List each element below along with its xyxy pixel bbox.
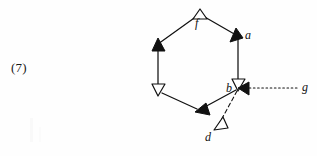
- edge-upperleft-to-top: [158, 16, 197, 44]
- edge-bottom-to-lowerleft: [162, 93, 197, 109]
- arrowhead-filled-a: [230, 28, 243, 42]
- arrowheads: [152, 9, 249, 130]
- node-label-g: g: [302, 81, 308, 93]
- figure-container: (7) f a b g d: [0, 0, 317, 156]
- diagram-canvas: [0, 0, 317, 156]
- node-label-d: d: [205, 131, 211, 143]
- figure-number: (7): [11, 60, 27, 76]
- node-label-a: a: [245, 29, 251, 41]
- node-label-f: f: [195, 17, 198, 29]
- hexagon-edges: [158, 16, 238, 109]
- edge-top-to-upperright: [203, 16, 236, 35]
- arrowhead-hollow-lowerleft: [152, 84, 165, 96]
- node-label-b: b: [226, 82, 232, 94]
- arrowhead-hollow-d: [214, 117, 228, 130]
